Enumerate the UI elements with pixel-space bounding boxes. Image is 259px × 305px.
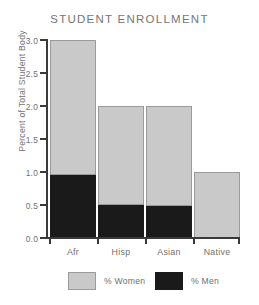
legend-label-women: % Women: [104, 276, 145, 286]
y-tick-label: 2.0: [4, 102, 38, 112]
y-tick-label: 1.5: [4, 135, 38, 145]
x-category-label-asian: Asian: [146, 247, 192, 257]
y-tick-label: 2.5: [4, 69, 38, 79]
y-axis-tick: [40, 72, 47, 74]
legend-swatch-men: [155, 272, 183, 290]
y-axis-tick: [40, 39, 47, 41]
bar-segment-men[interactable]: [50, 175, 96, 238]
y-tick-label: 0.0: [4, 234, 38, 244]
legend-item-women[interactable]: % Women: [68, 271, 158, 293]
bar-segment-women[interactable]: [98, 106, 144, 205]
chart-container: STUDENT ENROLLMENT Percent of Total Stud…: [0, 0, 259, 305]
y-axis-tick: [40, 204, 47, 206]
y-tick-label: 1.0: [4, 168, 38, 178]
bar-segment-men[interactable]: [146, 206, 192, 238]
legend-label-men: % Men: [191, 276, 219, 286]
legend-item-men[interactable]: % Men: [155, 271, 245, 293]
bar-hisp[interactable]: [98, 106, 144, 238]
bar-segment-women[interactable]: [146, 106, 192, 206]
chart-title: STUDENT ENROLLMENT: [0, 13, 259, 25]
y-axis-tick: [40, 171, 47, 173]
x-axis-tick: [49, 239, 51, 244]
bar-segment-women[interactable]: [194, 172, 240, 238]
bar-native[interactable]: [194, 172, 240, 238]
plot-area: [47, 40, 239, 238]
y-axis-tick: [40, 105, 47, 107]
x-axis-tick: [97, 239, 99, 244]
bar-afr[interactable]: [50, 40, 96, 238]
y-axis-tick-labels: 3.0 2.5 2.0 1.5 1.0 0.5 0.0: [0, 0, 38, 305]
x-category-label-hisp: Hisp: [98, 247, 144, 257]
x-axis-tick: [193, 239, 195, 244]
x-axis-tick: [238, 239, 240, 244]
legend-swatch-women: [68, 272, 96, 290]
y-axis-tick: [40, 138, 47, 140]
bar-asian[interactable]: [146, 106, 192, 238]
x-category-label-native: Native: [194, 247, 240, 257]
x-category-label-afr: Afr: [50, 247, 96, 257]
y-tick-label: 0.5: [4, 201, 38, 211]
bar-segment-women[interactable]: [50, 40, 96, 175]
bar-segment-men[interactable]: [98, 205, 144, 238]
x-axis-spine: [46, 237, 240, 239]
x-axis-tick: [145, 239, 147, 244]
chart-legend: % Women % Men: [0, 271, 259, 295]
y-tick-label: 3.0: [4, 36, 38, 46]
